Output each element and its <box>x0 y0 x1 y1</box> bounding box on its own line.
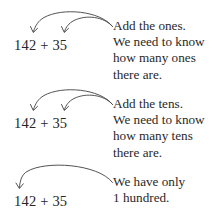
expression-hundreds-text: 142 + 35 <box>14 193 67 209</box>
step-group-ones: 142 + 35 Add the ones. We need to know h… <box>0 0 217 78</box>
expression-tens-text: 142 + 35 <box>14 115 67 131</box>
note-ones-line-1: Add the ones. <box>113 18 205 34</box>
note-hundreds: We have only 1 hundred. <box>113 174 185 206</box>
arrow-to-hundreds-of-142 <box>20 165 113 187</box>
note-hundreds-line-1: We have only <box>113 174 185 190</box>
step-group-tens: 142 + 35 Add the tens. We need to know h… <box>0 78 217 156</box>
math-annotation-figure: 142 + 35 Add the ones. We need to know h… <box>0 0 217 218</box>
arrowhead-to-tens-of-35 <box>62 105 69 111</box>
expression-hundreds: 142 + 35 <box>14 194 67 209</box>
note-hundreds-line-2: 1 hundred. <box>113 190 185 206</box>
arrowhead-to-ones-of-142 <box>31 27 38 33</box>
note-tens-line-2: We need to know <box>113 112 205 128</box>
arrow-to-ones-of-35 <box>65 17 113 31</box>
note-ones-line-2: We need to know <box>113 34 205 50</box>
expression-tens: 142 + 35 <box>14 116 67 131</box>
note-tens-line-3: how many tens <box>113 128 205 144</box>
step-group-hundreds: 142 + 35 We have only 1 hundred. <box>0 156 217 218</box>
arrow-to-ones-of-142 <box>34 12 113 32</box>
note-tens: Add the tens. We need to know how many t… <box>113 96 205 161</box>
note-ones-line-3: how many ones <box>113 50 205 66</box>
expression-ones: 142 + 35 <box>14 38 67 53</box>
arrow-to-tens-of-142 <box>34 90 113 110</box>
arrow-to-tens-of-35 <box>65 95 113 109</box>
arrowhead-to-ones-of-35 <box>62 27 69 33</box>
note-tens-line-1: Add the tens. <box>113 96 205 112</box>
note-ones: Add the ones. We need to know how many o… <box>113 18 205 83</box>
arrowhead-to-hundreds-of-142 <box>16 183 23 189</box>
expression-ones-text: 142 + 35 <box>14 37 67 53</box>
arrowhead-to-tens-of-142 <box>31 105 38 111</box>
